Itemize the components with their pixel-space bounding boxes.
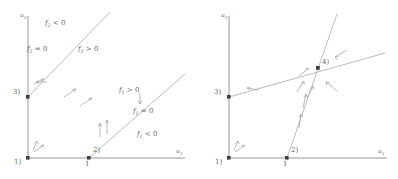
region-label-f1-zero: f1 = 0 — [133, 107, 153, 116]
equilibrium-label-3: 3) — [13, 88, 20, 96]
direction-field — [234, 50, 347, 152]
arrow-2 — [34, 145, 44, 152]
arrow-9 — [326, 82, 337, 91]
x-axis-label: u1 — [378, 147, 384, 156]
equilibrium-markers — [26, 95, 91, 160]
point-3-marker — [26, 95, 30, 99]
arrow-4 — [64, 89, 76, 97]
arrow-5 — [307, 86, 314, 98]
figure-canvas: u2 u1 1 f2 < 0 f2 = 0 f2 > 0 f1 > 0 f1 =… — [0, 0, 398, 179]
region-label-f1-positive: f1 > 0 — [119, 86, 139, 95]
y-axis-label: u2 — [20, 11, 26, 20]
arrow-2 — [235, 145, 245, 152]
nullcline-shallow — [229, 53, 385, 97]
x-axis-label: u1 — [176, 147, 182, 156]
equilibrium-label-3: 3) — [214, 88, 221, 96]
right-panel: u2 u1 1 1) 2) 3) 4) — [199, 0, 398, 179]
point-1-marker — [26, 156, 30, 160]
x-tick-1: 1 — [283, 160, 287, 168]
left-panel: u2 u1 1 f2 < 0 f2 = 0 f2 > 0 f1 > 0 f1 =… — [0, 0, 199, 179]
region-label-f2-positive: f2 > 0 — [78, 45, 98, 54]
right-panel-graphics — [199, 0, 398, 179]
arrow-10 — [297, 81, 304, 92]
equilibrium-label-4: 4) — [322, 58, 329, 66]
arrow-6 — [98, 123, 101, 137]
equilibrium-label-2: 2) — [93, 146, 100, 154]
region-label-f2-zero: f2 = 0 — [27, 45, 47, 54]
point-1-marker — [227, 156, 231, 160]
x-tick-1: 1 — [85, 160, 89, 168]
point-3-marker — [227, 95, 231, 99]
nullcline-steep — [287, 14, 337, 158]
arrow-1 — [234, 141, 239, 150]
region-label-f1-negative: f1 < 0 — [137, 130, 157, 139]
arrow-8 — [335, 50, 347, 60]
equilibrium-label-1: 1) — [215, 158, 222, 166]
arrow-1 — [33, 141, 38, 150]
point-4-marker — [316, 66, 320, 70]
arrow-7 — [105, 120, 108, 134]
y-axis-label: u2 — [221, 11, 227, 20]
arrow-5 — [80, 98, 92, 106]
nullcline-f2 — [28, 12, 110, 97]
equilibrium-label-1: 1) — [14, 158, 21, 166]
equilibrium-label-2: 2) — [291, 146, 298, 154]
equilibrium-markers — [227, 66, 320, 160]
region-label-f2-negative: f2 < 0 — [45, 19, 65, 28]
arrow-7 — [247, 87, 259, 90]
